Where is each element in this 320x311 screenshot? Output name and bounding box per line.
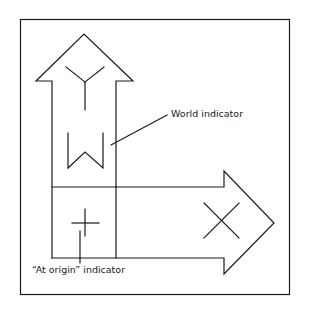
y-glyph-icon <box>66 67 104 110</box>
at-origin-indicator-label: “At origin” indicator <box>32 265 125 275</box>
w-glyph-icon <box>68 133 103 168</box>
world-indicator-leader <box>111 115 167 145</box>
frame-border <box>21 20 290 295</box>
x-glyph-icon <box>204 203 239 238</box>
world-indicator-label: World indicator <box>171 109 243 119</box>
origin-plus-icon <box>72 209 99 236</box>
